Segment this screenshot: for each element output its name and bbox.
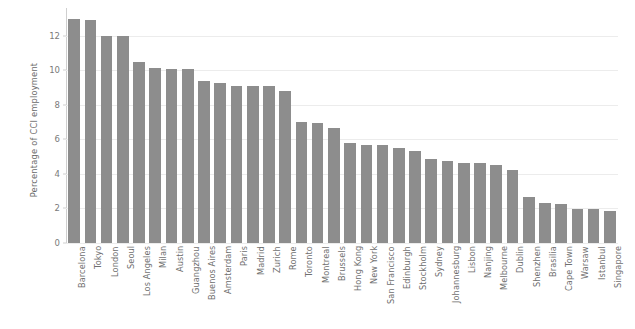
x-axis-label: Barcelona [67,246,81,326]
bar [101,36,113,243]
gridline [66,243,618,244]
bar [588,209,600,243]
x-axis-label: Toronto [294,246,308,326]
bar [182,69,194,243]
bar [425,159,437,243]
bar [214,83,226,243]
bar [490,165,502,243]
x-axis-label: Austin [165,246,179,326]
bar [572,209,584,243]
bar [507,170,519,243]
bar [231,86,243,243]
bar [523,197,535,243]
x-axis-label: Los Angeles [132,246,146,326]
x-axis-label: Montreal [311,246,325,326]
bar [263,86,275,243]
bar [149,68,161,243]
x-axis-label: Milan [148,246,162,326]
x-axis-label: Sydney [424,246,438,326]
bar [555,204,567,243]
x-axis-label: London [100,246,114,326]
bar [344,143,356,243]
x-axis-label: Stockholm [408,246,422,326]
x-axis-label-text: Singapore [613,246,623,288]
x-axis-label: Warsaw [570,246,584,326]
x-axis-label: Madrid [246,246,260,326]
bar [604,211,616,243]
x-axis-label: Melbourne [489,246,503,326]
x-axis-label: Shenzhen [522,246,536,326]
bar [133,62,145,243]
bars-group [66,8,618,243]
bar [198,81,210,243]
bar [247,86,259,243]
bar [409,151,421,243]
bar-chart: Percentage of CCI employment 024681012 B… [0,0,635,329]
x-axis-label: Brussels [327,246,341,326]
plot-area: 024681012 [66,8,618,243]
x-axis-label: Hong Kong [343,246,357,326]
bar [68,19,80,243]
y-axis-title: Percentage of CCI employment [27,25,41,235]
x-axis-label: Zurich [262,246,276,326]
y-axis-title-label: Percentage of CCI employment [29,63,39,198]
bar [458,163,470,243]
x-axis-label: Buenos Aires [197,246,211,326]
bar [279,91,291,243]
x-axis-label: Amsterdam [213,246,227,326]
x-axis-label: Guangzhou [181,246,195,326]
x-axis-label: Dublin [505,246,519,326]
bar [85,20,97,243]
x-axis-label: Nanjing [473,246,487,326]
x-axis-label: San Francisco [376,246,390,326]
bar [393,148,405,243]
bar [442,161,454,243]
bar [296,122,308,243]
bar [328,128,340,243]
x-axis-label: Johannesburg [441,246,455,326]
bar [377,145,389,243]
bar [166,69,178,243]
x-axis-label: Cape Town [554,246,568,326]
bar [312,123,324,243]
bar [117,36,129,243]
x-axis-label: Seoul [116,246,130,326]
x-axis-label: Tokyo [83,246,97,326]
bar [539,203,551,243]
x-axis-label: Singapore [603,246,617,326]
x-axis-label: Edinburgh [392,246,406,326]
x-axis-label: Istanbul [587,246,601,326]
x-axis-label: New York [359,246,373,326]
x-axis-labels: BarcelonaTokyoLondonSeoulLos AngelesMila… [66,246,618,329]
x-axis-label: Brasilia [538,246,552,326]
x-axis-label: Paris [229,246,243,326]
bar [474,163,486,243]
x-axis-label: Lisbon [457,246,471,326]
bar [361,145,373,243]
x-axis-label: Rome [278,246,292,326]
